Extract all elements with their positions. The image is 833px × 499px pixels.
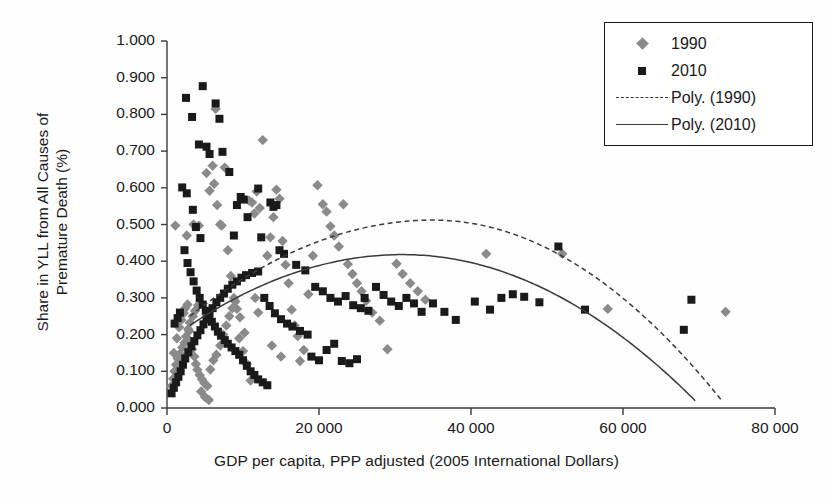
data-point-square <box>387 298 395 306</box>
y-tick-label: 0.500 <box>93 215 155 233</box>
data-point-square <box>307 353 315 361</box>
trendline-1990 <box>190 220 722 401</box>
data-point-square <box>319 287 327 295</box>
data-point-square <box>254 185 262 193</box>
data-point-square <box>304 331 312 339</box>
data-point-diamond <box>391 259 401 269</box>
data-point-diamond <box>352 278 362 288</box>
data-point-diamond <box>277 236 287 246</box>
legend-label-poly-2010: Poly. (2010) <box>671 116 756 134</box>
data-point-square <box>187 268 195 276</box>
data-point-square <box>212 99 220 107</box>
data-point-diamond <box>201 168 211 178</box>
data-point-square <box>176 309 184 317</box>
data-point-square <box>395 302 403 310</box>
data-point-diamond <box>276 351 286 361</box>
data-point-diamond <box>170 220 180 230</box>
data-point-square <box>497 294 505 302</box>
data-point-diamond <box>212 200 222 210</box>
poly-trendline-1990 <box>190 220 722 401</box>
data-point-square <box>180 246 188 254</box>
legend-item-1990[interactable]: 1990 <box>605 30 812 57</box>
data-point-square <box>345 359 353 367</box>
y-axis-title-line2: Premature Death (%) <box>52 149 71 295</box>
data-point-square <box>192 223 200 231</box>
data-point-diamond <box>325 221 335 231</box>
dashed-line-icon <box>613 97 671 98</box>
data-point-diamond <box>295 356 305 366</box>
data-point-square <box>334 298 342 306</box>
data-point-square <box>230 232 238 240</box>
data-point-square <box>323 346 331 354</box>
y-axis-title-line1: Share in YLL from All Causes of <box>33 113 52 332</box>
legend-label-poly-1990: Poly. (1990) <box>671 89 756 107</box>
x-tick-label: 80 000 <box>730 419 820 437</box>
data-point-diamond <box>265 232 275 242</box>
data-point-square <box>402 294 410 302</box>
data-point-square <box>349 301 357 309</box>
data-point-square <box>687 296 695 304</box>
data-point-square <box>225 168 233 176</box>
data-point-square <box>288 323 296 331</box>
data-point-square <box>215 115 223 123</box>
x-tick-label: 60 000 <box>578 419 668 437</box>
legend-label-1990: 1990 <box>671 35 707 53</box>
data-point-square <box>364 307 372 315</box>
legend-item-poly-1990[interactable]: Poly. (1990) <box>605 84 812 111</box>
data-point-diamond <box>286 304 296 314</box>
series-markers-1990 <box>166 104 730 405</box>
data-point-square <box>326 294 334 302</box>
data-point-diamond <box>338 199 348 209</box>
data-point-square <box>206 150 214 158</box>
y-tick-label: 0.200 <box>93 325 155 343</box>
data-point-diamond <box>283 278 293 288</box>
data-point-square <box>189 206 197 214</box>
data-point-diamond <box>223 245 233 255</box>
data-point-diamond <box>405 278 415 288</box>
x-axis-title: GDP per capita, PPP adjusted (2005 Inter… <box>0 452 833 470</box>
y-tick-label: 0.300 <box>93 288 155 306</box>
square-marker-icon <box>613 67 671 75</box>
data-point-diamond <box>603 304 613 314</box>
data-point-square <box>353 355 361 363</box>
data-point-square <box>520 293 528 301</box>
data-point-square <box>263 381 271 389</box>
data-point-square <box>184 259 192 267</box>
data-point-square <box>240 196 248 204</box>
data-point-diamond <box>720 307 730 317</box>
data-point-square <box>554 243 562 251</box>
data-point-square <box>199 82 207 90</box>
data-point-square <box>429 299 437 307</box>
data-point-square <box>680 326 688 334</box>
solid-line-icon <box>613 124 671 125</box>
data-point-diamond <box>221 320 231 330</box>
data-point-diamond <box>207 161 217 171</box>
data-point-diamond <box>235 312 245 322</box>
data-point-square <box>372 283 380 291</box>
data-point-diamond <box>413 286 423 296</box>
data-point-square <box>272 201 280 209</box>
data-point-square <box>418 308 426 316</box>
chart-figure: 0.0000.1000.2000.3000.4000.5000.6000.700… <box>0 0 833 499</box>
y-tick-label: 0.400 <box>93 251 155 269</box>
data-point-square <box>509 290 517 298</box>
y-tick-label: 0.800 <box>93 104 155 122</box>
chart-legend: 1990 2010 Poly. (1990) Poly. (2010) <box>604 22 813 146</box>
data-point-diamond <box>250 293 260 303</box>
data-point-square <box>183 189 191 197</box>
data-point-diamond <box>258 135 268 145</box>
data-point-diamond <box>334 241 344 251</box>
data-point-square <box>380 291 388 299</box>
legend-label-2010: 2010 <box>671 62 707 80</box>
data-point-square <box>260 294 268 302</box>
legend-item-2010[interactable]: 2010 <box>605 57 812 84</box>
data-point-square <box>486 306 494 314</box>
data-point-diamond <box>268 212 278 222</box>
y-axis-title: Share in YLL from All Causes of Prematur… <box>30 22 74 422</box>
data-point-square <box>218 148 226 156</box>
y-tick-label: 0.600 <box>93 178 155 196</box>
x-tick-label: 20 000 <box>274 419 364 437</box>
data-point-square <box>315 356 323 364</box>
data-point-square <box>266 302 274 310</box>
legend-item-poly-2010[interactable]: Poly. (2010) <box>605 111 812 138</box>
